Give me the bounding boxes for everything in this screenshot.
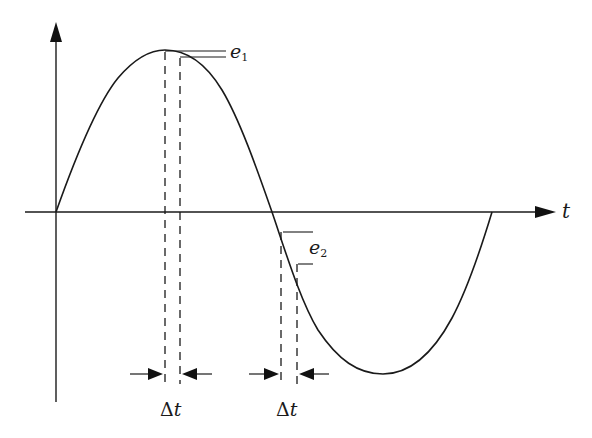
peak-dashed-lines bbox=[165, 52, 180, 384]
arrow-right-icon bbox=[148, 368, 163, 380]
x-axis-arrow-icon bbox=[535, 206, 556, 218]
e2-label: e2 bbox=[309, 236, 327, 260]
delta-t-label-2: Δt bbox=[276, 398, 297, 420]
e1-label: e1 bbox=[230, 40, 248, 64]
e1-symbol: e bbox=[230, 40, 241, 62]
interval-arrows-2 bbox=[249, 368, 329, 380]
x-axis bbox=[25, 206, 556, 218]
t-symbol: t bbox=[290, 398, 298, 420]
y-axis-arrow-icon bbox=[50, 22, 62, 42]
t-symbol: t bbox=[174, 398, 182, 420]
interval-arrows-1 bbox=[130, 368, 212, 380]
arrow-left-icon bbox=[299, 368, 314, 380]
e1-level-lines bbox=[165, 51, 226, 57]
zero-crossing-dashed-lines bbox=[281, 232, 297, 384]
delta-symbol: Δ bbox=[160, 398, 174, 420]
e2-subscript: 2 bbox=[320, 247, 327, 260]
arrow-left-icon bbox=[182, 368, 197, 380]
x-axis-label: t bbox=[562, 199, 570, 223]
arrow-right-icon bbox=[264, 368, 279, 380]
diagram-svg bbox=[0, 0, 592, 438]
delta-t-label-1: Δt bbox=[160, 398, 181, 420]
e1-subscript: 1 bbox=[241, 51, 248, 64]
delta-symbol: Δ bbox=[276, 398, 290, 420]
e2-symbol: e bbox=[309, 236, 320, 258]
diagram-canvas: t e1 e2 Δt Δt bbox=[0, 0, 592, 438]
